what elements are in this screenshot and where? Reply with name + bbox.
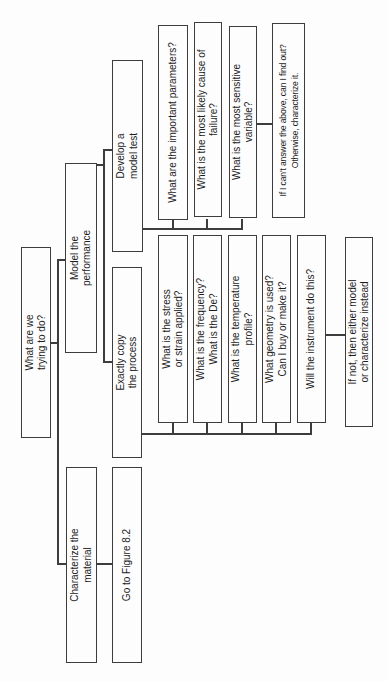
connector-characterize-to-goto [97, 563, 112, 565]
connector-sensitive-to-cantanswer [257, 123, 272, 125]
connector-root-branch-line [57, 259, 59, 565]
connector-stub-stress [172, 423, 174, 435]
connector-stub-sensitive [241, 219, 243, 230]
node-geometry-used: What geometry is used? Can I buy or make… [262, 235, 291, 423]
node-go-to-figure-8-2: Go to Figure 8.2 [112, 467, 142, 663]
node-temperature-profile: What is the temperature profile? [228, 235, 257, 423]
node-develop-a-model-test: Develop a model test [112, 60, 143, 252]
connector-drop-characterize [57, 563, 66, 565]
connector-stub-temperature [241, 423, 243, 435]
node-what-are-we-trying-to-do: What are we trying to do? [21, 247, 51, 438]
flowchart: What are we trying to do? Characterize t… [0, 0, 388, 681]
node-most-sensitive-variable: What is the most sensitive variable? [229, 26, 257, 218]
node-characterize-the-material: Characterize the material [66, 467, 97, 663]
node-important-parameters: What are the important parameters? [158, 25, 188, 220]
node-model-the-performance: Model the performance [65, 163, 97, 353]
connector-stub-failure [206, 219, 208, 230]
node-stress-or-strain-applied: What is the stress or strain applied? [158, 235, 188, 423]
connector-stub-geometry [275, 423, 277, 435]
connector-drop-exactly-copy [103, 361, 112, 363]
node-frequency-and-de: What is the frequency? What is the De? [193, 235, 222, 423]
connector-test-children-line [143, 228, 243, 230]
connector-drop-develop-test [103, 149, 112, 151]
node-exactly-copy-the-process: Exactly copy the process [112, 267, 142, 458]
node-cant-answer-characterize-it: If I can't answer the above, can I find … [272, 23, 305, 218]
connector-stub-instrument [310, 423, 312, 435]
connector-stub-parameters [172, 219, 174, 230]
connector-drop-model-performance [57, 259, 66, 261]
node-will-instrument-do-this: Will the instrument do this? [297, 235, 326, 423]
connector-stub-frequency [206, 423, 208, 435]
connector-instrument-to-ifnot [326, 334, 345, 336]
connector-copy-children-line [142, 433, 312, 435]
node-likely-cause-of-failure: What is the most likely cause of failure… [194, 22, 222, 217]
connector-performance-branch-line [103, 149, 105, 363]
node-if-not-model-or-characterize: If not, then either model or characteriz… [345, 237, 373, 427]
